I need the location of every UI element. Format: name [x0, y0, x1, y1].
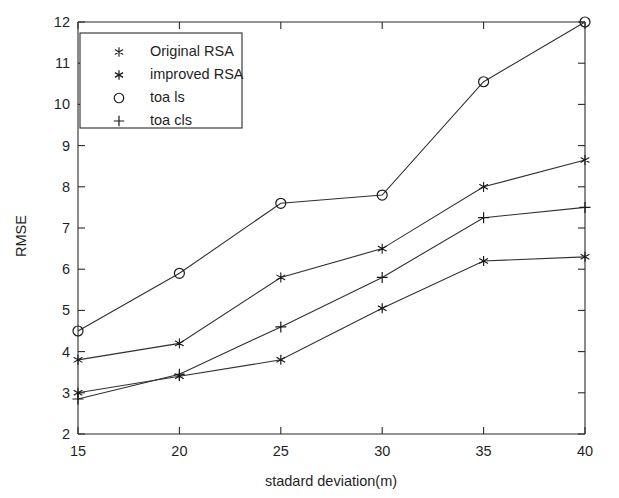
rmse-vs-standard-deviation-chart: 23456789101112 152025303540 stadard devi… — [0, 0, 619, 498]
y-tick-label: 2 — [62, 426, 70, 442]
x-axis-tick-labels: 152025303540 — [70, 443, 593, 459]
marker-plus — [478, 212, 489, 223]
y-tick-label: 9 — [62, 138, 70, 154]
chart-figure: 23456789101112 152025303540 stadard devi… — [0, 0, 619, 498]
x-tick-label: 35 — [476, 443, 492, 459]
marker-plus — [275, 321, 286, 332]
y-tick-label: 11 — [55, 55, 70, 71]
legend-label: toa ls — [150, 89, 185, 105]
y-axis-title: RMSE — [13, 215, 29, 257]
y-tick-label: 12 — [54, 14, 70, 30]
series-line — [78, 207, 585, 399]
marker-filled-star — [277, 273, 285, 282]
series-toa-cls — [73, 202, 591, 405]
y-tick-label: 6 — [62, 261, 70, 277]
y-tick-label: 8 — [62, 179, 70, 195]
legend-label: toa cls — [150, 112, 192, 128]
x-tick-label: 20 — [171, 443, 187, 459]
y-axis-tick-labels: 23456789101112 — [54, 14, 70, 442]
legend: Original RSAimproved RSAtoa lstoa cls — [80, 33, 244, 128]
y-tick-label: 5 — [62, 302, 70, 318]
y-tick-label: 4 — [62, 344, 70, 360]
y-tick-label: 7 — [62, 220, 70, 236]
x-tick-label: 40 — [577, 443, 593, 459]
y-tick-label: 10 — [54, 96, 70, 112]
series-line — [78, 257, 585, 393]
marker-filled-star — [581, 155, 589, 164]
legend-label: improved RSA — [150, 66, 244, 82]
marker-open-star — [378, 303, 387, 313]
y-tick-label: 3 — [62, 385, 70, 401]
marker-filled-star — [378, 244, 386, 253]
marker-filled-star — [480, 182, 488, 191]
x-tick-label: 25 — [273, 443, 289, 459]
marker-plus — [377, 272, 388, 283]
x-tick-label: 15 — [70, 443, 86, 459]
legend-label: Original RSA — [150, 43, 234, 59]
series-improved-rsa — [74, 252, 590, 398]
x-axis-title: stadard deviation(m) — [265, 473, 397, 489]
marker-plus — [580, 202, 591, 213]
x-tick-label: 30 — [374, 443, 390, 459]
